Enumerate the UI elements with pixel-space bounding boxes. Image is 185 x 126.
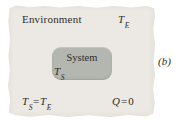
heat-symbol: Q (112, 95, 120, 107)
equality-rhs-subscript: E (47, 103, 52, 112)
equality-lhs-subscript: S (29, 103, 33, 112)
equality-lhs-symbol: T (22, 95, 28, 107)
environment-temperature-subscript: E (125, 21, 130, 30)
figure-canvas: Environment TE System TS TS=TE Q=0 (b) (0, 0, 185, 126)
system-temperature-subscript: S (61, 73, 65, 82)
environment-temperature-label: TE (118, 13, 129, 26)
system-temperature-symbol: T (54, 65, 60, 77)
figure-part-label-text: (b) (158, 55, 171, 67)
heat-value: 0 (128, 95, 134, 107)
environment-temperature-symbol: T (118, 13, 124, 25)
system-box: System TS (52, 47, 112, 80)
heat-equals-sign: = (120, 95, 128, 107)
environment-label: Environment (22, 13, 82, 26)
environment-panel: Environment TE System TS TS=TE Q=0 (8, 5, 155, 117)
temperature-equality-equation: TS=TE (22, 95, 51, 108)
system-label: System (52, 51, 112, 64)
figure-part-label: (b) (158, 55, 171, 67)
heat-equation: Q=0 (112, 95, 134, 108)
equality-rhs-symbol: T (40, 95, 46, 107)
equality-equals-sign: = (32, 95, 40, 107)
system-temperature-label: TS (54, 65, 64, 78)
